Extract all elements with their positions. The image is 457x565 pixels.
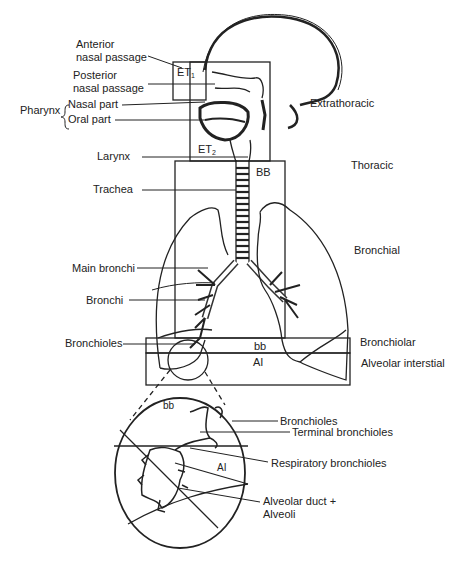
box-code-bb-upper: BB — [256, 166, 271, 179]
et1-text: ET — [177, 66, 191, 78]
et2-subscript: 2 — [212, 149, 216, 156]
inset-label-respiratory-bronchioles: Respiratory bronchioles — [271, 457, 387, 470]
label-bronchioles: Bronchioles — [65, 337, 122, 350]
label-pharynx: Pharynx — [20, 104, 60, 117]
inset-code-bb: bb — [163, 399, 174, 412]
box-code-et2: ET2 — [198, 143, 216, 159]
inset-alveoli — [142, 447, 184, 508]
magnified-region-marker — [168, 340, 208, 380]
label-posterior-nasal-passage: Posterior nasal passage — [73, 69, 144, 95]
region-thoracic: Thoracic — [351, 159, 393, 172]
label-pharynx-nasal-part: Nasal part — [68, 98, 118, 111]
region-bronchiolar: Bronchiolar — [360, 336, 416, 349]
label-line-2: nasal passage — [73, 82, 144, 95]
trachea — [236, 160, 249, 265]
region-alveolar-interstitial: Alveolar interstial — [361, 357, 445, 370]
inset-bronchioles — [175, 407, 222, 450]
et1-subscript: 1 — [191, 72, 195, 79]
label-line-2: Alveoli — [263, 508, 336, 521]
label-line-1: Alveolar duct + — [263, 495, 336, 508]
inset-label-terminal-bronchioles: Terminal bronchioles — [292, 426, 393, 439]
inset-label-alveolar-duct: Alveolar duct + Alveoli — [263, 495, 336, 521]
box-code-et1: ET1 — [177, 66, 195, 82]
nasal-cavity — [212, 72, 263, 98]
region-bronchial: Bronchial — [354, 244, 400, 257]
region-extrathoracic: Extrathoracic — [310, 97, 374, 110]
bb-box — [175, 161, 285, 338]
label-line-2: nasal passage — [76, 51, 147, 64]
bb-strip — [146, 338, 350, 353]
head-outline — [205, 17, 339, 128]
label-larynx: Larynx — [97, 150, 130, 163]
box-code-bb-lower: bb — [254, 340, 266, 353]
box-code-ai: AI — [253, 356, 263, 369]
label-line-1: Posterior — [73, 69, 144, 82]
label-pharynx-oral-part: Oral part — [68, 113, 111, 126]
et2-text: ET — [198, 143, 212, 155]
label-main-bronchi: Main bronchi — [72, 262, 135, 275]
respiratory-tract-diagram — [0, 0, 457, 565]
label-trachea: Trachea — [93, 183, 133, 196]
label-anterior-nasal-passage: Anterior nasal passage — [76, 38, 147, 64]
neck — [230, 140, 251, 162]
label-line-1: Anterior — [76, 38, 147, 51]
label-bronchi: Bronchi — [86, 294, 123, 307]
inset-code-ai: AI — [217, 461, 226, 474]
